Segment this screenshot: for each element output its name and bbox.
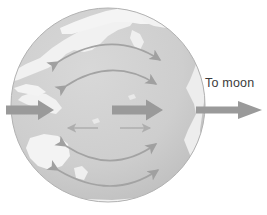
diagram-canvas	[0, 0, 267, 215]
tidal-force-diagram: To moon	[0, 0, 267, 215]
to-moon-label: To moon	[205, 76, 254, 91]
to-moon-arrow	[196, 101, 262, 119]
